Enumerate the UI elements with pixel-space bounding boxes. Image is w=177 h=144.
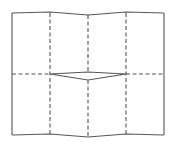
top-edge bbox=[12, 12, 164, 15]
center-diamond-gap bbox=[50, 72, 126, 80]
folded-paper-diagram bbox=[0, 0, 177, 144]
